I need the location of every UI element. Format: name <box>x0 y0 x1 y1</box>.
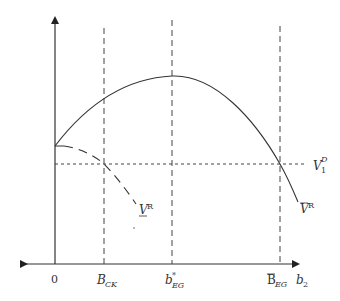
label-bbar-eg: B EG <box>267 273 288 289</box>
svg-text:1: 1 <box>321 166 326 175</box>
origin-label: 0 <box>51 273 58 286</box>
svg-text:CK: CK <box>105 280 118 289</box>
label-v1d: V D 1 <box>313 155 328 175</box>
label-upper-curve: V R <box>300 201 315 216</box>
svg-text:R: R <box>308 201 315 210</box>
svg-text:2: 2 <box>303 280 308 289</box>
label-lower-curve: V R <box>139 202 154 217</box>
label-bstar-eg: b * EG <box>165 271 185 290</box>
svg-text:EG: EG <box>274 280 288 289</box>
svg-text:R: R <box>147 202 154 211</box>
label-bck: B CK <box>96 273 118 289</box>
diagram-canvas: 0 B CK b * EG B EG b 2 V D 1 V R V R <box>0 0 340 301</box>
svg-text:*: * <box>172 271 176 280</box>
svg-text:D: D <box>320 155 328 164</box>
upper-value-curve <box>55 76 298 202</box>
lower-value-curve <box>64 146 136 204</box>
x-axis-label: b 2 <box>296 273 308 289</box>
svg-text:EG: EG <box>171 281 185 290</box>
stray-dot <box>133 227 135 229</box>
